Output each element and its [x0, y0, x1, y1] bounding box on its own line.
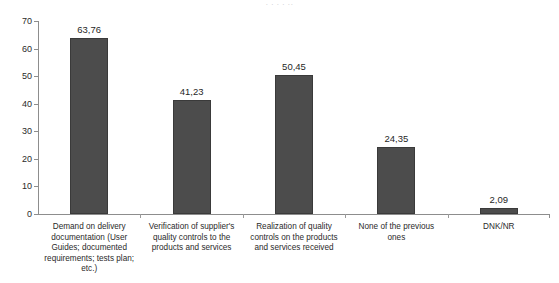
y-axis-tick	[34, 159, 38, 160]
x-axis-category-label: Realization of quality controls on the p…	[243, 222, 345, 254]
bar	[275, 75, 313, 214]
y-axis-label: 40	[22, 99, 32, 109]
y-axis-label: 30	[22, 126, 32, 136]
bar	[377, 147, 415, 214]
y-axis-tick	[34, 131, 38, 132]
x-axis-category-label: DNK/NR	[448, 222, 550, 233]
x-axis-tick	[243, 214, 244, 218]
x-axis-category-label: Verification of supplier's quality contr…	[140, 222, 242, 254]
y-axis-line	[38, 21, 39, 215]
bar-chart: · · · · ·· 010203040506070 63,7641,2350,…	[0, 0, 559, 283]
clipped-header-text: · · · · ··	[0, 0, 559, 9]
y-axis-label: 20	[22, 154, 32, 164]
y-axis-label: 50	[22, 71, 32, 81]
bar	[173, 100, 211, 214]
y-axis-label: 70	[22, 16, 32, 26]
x-axis-line	[38, 214, 550, 215]
plot-area: 010203040506070 63,7641,2350,4524,352,09	[38, 21, 550, 215]
x-axis-category-label: None of the previous ones	[345, 222, 447, 243]
x-axis-category-label: Demand on delivery documentation (User G…	[38, 222, 140, 275]
bar	[480, 208, 518, 214]
x-axis-tick	[448, 214, 449, 218]
y-axis-tick	[34, 76, 38, 77]
y-axis-label: 10	[22, 181, 32, 191]
y-axis-tick	[34, 21, 38, 22]
bar-value-label: 50,45	[282, 61, 306, 72]
y-axis-tick	[34, 104, 38, 105]
bar-value-label: 63,76	[77, 24, 101, 35]
bar-value-label: 24,35	[385, 133, 409, 144]
bar-value-label: 41,23	[180, 86, 204, 97]
y-axis-tick	[34, 214, 38, 215]
y-axis-tick	[34, 49, 38, 50]
bar-value-label: 2,09	[490, 194, 509, 205]
x-axis-tick	[140, 214, 141, 218]
bar	[70, 38, 108, 214]
y-axis-tick	[34, 186, 38, 187]
y-axis-label: 0	[27, 209, 32, 219]
x-axis-end-tick	[549, 214, 550, 218]
x-axis-tick	[345, 214, 346, 218]
y-axis-label: 60	[22, 44, 32, 54]
